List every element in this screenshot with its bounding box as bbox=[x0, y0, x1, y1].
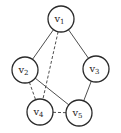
node-v2: v2 bbox=[12, 57, 38, 83]
graph-diagram: v1v2v3v4v5 bbox=[0, 0, 121, 133]
edge-v1-v3 bbox=[68, 30, 88, 59]
node-v5: v5 bbox=[66, 100, 92, 126]
nodes-layer: v1v2v3v4v5 bbox=[12, 6, 109, 126]
node-v4: v4 bbox=[27, 99, 53, 125]
edge-v2-v4 bbox=[29, 82, 35, 100]
edge-v1-v2 bbox=[33, 30, 54, 60]
node-v3: v3 bbox=[83, 56, 109, 82]
edge-v3-v5 bbox=[84, 81, 92, 101]
node-v1: v1 bbox=[48, 6, 74, 32]
